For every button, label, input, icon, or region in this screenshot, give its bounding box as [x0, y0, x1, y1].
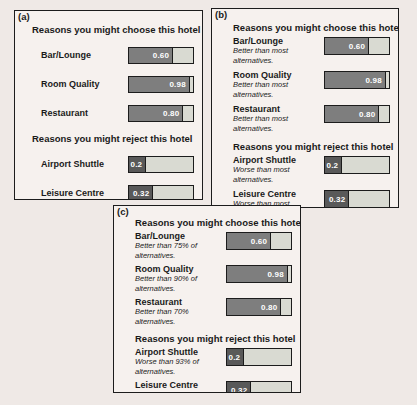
- figure-hotel-reasons: (a) Reasons you might choose this hotel …: [0, 0, 417, 405]
- score-bar-fill: 0.98: [325, 72, 386, 88]
- metric-label-block: Restaurant Better than 70% alternatives.: [135, 297, 223, 328]
- metric-label: Room Quality: [233, 70, 321, 80]
- metric-label: Bar/Lounge: [233, 36, 321, 46]
- score-bar: 0.98: [226, 265, 292, 283]
- panel-a: (a) Reasons you might choose this hotel …: [14, 10, 203, 200]
- score-bar-fill: 0.2: [227, 349, 244, 365]
- metric-label-block: Bar/Lounge Better than most alternatives…: [233, 36, 321, 67]
- score-value: 0.60: [251, 237, 267, 246]
- score-value: 0.2: [327, 161, 339, 170]
- panel-a-reject-title: Reasons you might reject this hotel: [32, 133, 202, 144]
- score-bar: 0.98: [128, 76, 194, 93]
- score-value: 0.32: [231, 386, 247, 394]
- score-value: 0.60: [153, 51, 169, 60]
- score-bar: 0.32: [324, 190, 390, 208]
- score-bar: 0.32: [128, 185, 194, 200]
- metric-row-bar-lounge: Bar/Lounge 0.60: [41, 47, 194, 64]
- score-value: 0.98: [267, 270, 283, 279]
- metric-row-leisure-centre: Leisure Centre Worse than 80% of alterna…: [135, 380, 292, 393]
- metric-label: Leisure Centre: [233, 189, 321, 199]
- metric-row-airport-shuttle: Airport Shuttle Worse than 93% of altern…: [135, 347, 292, 379]
- score-value: 0.80: [359, 110, 375, 119]
- score-bar-fill: 0.60: [129, 48, 173, 63]
- metric-row-leisure-centre: Leisure Centre 0.32: [41, 185, 194, 200]
- metric-subtitle: Better than most alternatives.: [233, 46, 321, 66]
- metric-row-room-quality: Room Quality Better than 90% of alternat…: [135, 264, 292, 296]
- score-bar-fill: 0.60: [325, 38, 369, 54]
- score-bar-fill: 0.32: [129, 186, 153, 200]
- metric-label: Leisure Centre: [41, 188, 104, 198]
- metric-row-restaurant: Restaurant Better than most alternatives…: [233, 104, 390, 137]
- metric-label-block: Airport Shuttle Worse than 93% of altern…: [135, 347, 223, 378]
- metric-row-bar-lounge: Bar/Lounge Better than most alternatives…: [233, 36, 390, 69]
- score-value: 0.32: [329, 195, 345, 204]
- panel-a-tag: (a): [18, 11, 30, 22]
- score-bar: 0.2: [324, 156, 390, 174]
- metric-subtitle: Worse than most alternatives.: [233, 165, 321, 185]
- score-value: 0.80: [163, 109, 179, 118]
- panel-c-tag: (c): [117, 206, 129, 217]
- metric-label-block: Restaurant Better than most alternatives…: [233, 104, 321, 135]
- score-bar: 0.80: [128, 105, 194, 122]
- metric-label: Restaurant: [233, 104, 321, 114]
- metric-row-room-quality: Room Quality 0.98: [41, 76, 194, 93]
- panel-c: (c) Reasons you might choose this hotel …: [113, 205, 301, 393]
- metric-label: Airport Shuttle: [233, 155, 321, 165]
- panel-c-choose-title: Reasons you might choose this hotel: [135, 217, 300, 228]
- metric-row-room-quality: Room Quality Better than most alternativ…: [233, 70, 390, 103]
- score-value: 0.60: [349, 42, 365, 51]
- score-bar: 0.2: [128, 156, 194, 173]
- score-bar-fill: 0.98: [227, 266, 288, 282]
- score-bar-fill: 0.2: [325, 157, 342, 173]
- metric-label-block: Airport Shuttle Worse than most alternat…: [233, 155, 321, 186]
- score-value: 0.98: [169, 80, 185, 89]
- score-bar: 0.2: [226, 348, 292, 366]
- panel-b-reject-title: Reasons you might reject this hotel: [233, 141, 398, 152]
- score-bar-fill: 0.60: [227, 233, 271, 249]
- score-bar: 0.60: [324, 37, 390, 55]
- score-bar: 0.80: [324, 105, 390, 123]
- score-bar-fill: 0.32: [227, 382, 251, 393]
- metric-row-airport-shuttle: Airport Shuttle 0.2: [41, 156, 194, 173]
- metric-label: Leisure Centre: [135, 380, 223, 390]
- metric-label-block: Bar/Lounge Better than 75% of alternativ…: [135, 231, 223, 262]
- metric-label: Bar/Lounge: [41, 50, 91, 60]
- score-bar-fill: 0.32: [325, 191, 349, 207]
- score-bar: 0.98: [324, 71, 390, 89]
- metric-label: Room Quality: [41, 79, 100, 89]
- score-value: 0.2: [131, 160, 143, 169]
- metric-subtitle: Worse than 80% of alternatives.: [135, 390, 223, 393]
- metric-label-block: Room Quality Better than 90% of alternat…: [135, 264, 223, 295]
- score-bar: 0.32: [226, 381, 292, 393]
- metric-label: Room Quality: [135, 264, 223, 274]
- score-bar: 0.80: [226, 298, 292, 316]
- metric-row-bar-lounge: Bar/Lounge Better than 75% of alternativ…: [135, 231, 292, 263]
- metric-row-airport-shuttle: Airport Shuttle Worse than most alternat…: [233, 155, 390, 188]
- metric-label: Bar/Lounge: [135, 231, 223, 241]
- metric-row-restaurant: Restaurant Better than 70% alternatives.…: [135, 297, 292, 329]
- score-value: 0.98: [365, 76, 381, 85]
- panel-b-tag: (b): [215, 9, 227, 20]
- score-bar-fill: 0.98: [129, 77, 190, 92]
- score-value: 0.32: [133, 189, 149, 198]
- metric-label: Restaurant: [41, 108, 88, 118]
- panel-b: (b) Reasons you might choose this hotel …: [211, 8, 399, 208]
- metric-subtitle: Better than most alternatives.: [233, 114, 321, 134]
- score-bar: 0.60: [128, 47, 194, 64]
- metric-subtitle: Better than 70% alternatives.: [135, 307, 223, 327]
- score-bar-fill: 0.80: [129, 106, 183, 121]
- metric-subtitle: Better than 75% of alternatives.: [135, 241, 223, 261]
- score-value: 0.80: [261, 303, 277, 312]
- score-bar-fill: 0.2: [129, 157, 146, 172]
- metric-label: Airport Shuttle: [135, 347, 223, 357]
- metric-label: Airport Shuttle: [41, 159, 104, 169]
- panel-a-choose-title: Reasons you might choose this hotel: [32, 24, 202, 35]
- metric-subtitle: Worse than 93% of alternatives.: [135, 357, 223, 377]
- score-value: 0.2: [229, 353, 241, 362]
- metric-row-restaurant: Restaurant 0.80: [41, 105, 194, 122]
- score-bar-fill: 0.80: [325, 106, 379, 122]
- metric-label-block: Room Quality Better than most alternativ…: [233, 70, 321, 101]
- metric-subtitle: Better than most alternatives.: [233, 80, 321, 100]
- panel-b-choose-title: Reasons you might choose this hotel: [233, 22, 398, 33]
- score-bar: 0.60: [226, 232, 292, 250]
